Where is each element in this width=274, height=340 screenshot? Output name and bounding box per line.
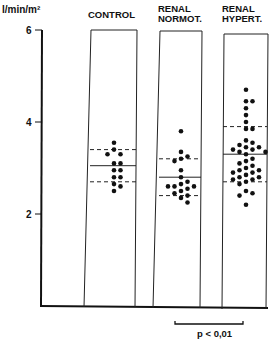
significance-annotation: p < 0,01 (175, 321, 243, 339)
data-point (231, 147, 236, 152)
column-renal-normot: RENALNORMOT. (153, 3, 202, 308)
y-tick-label: 2 (26, 209, 32, 220)
data-point (179, 157, 184, 162)
data-point (244, 113, 249, 118)
data-point (118, 175, 123, 180)
data-point (172, 159, 177, 164)
data-point (237, 193, 242, 198)
data-point (179, 129, 184, 134)
data-point (237, 150, 242, 155)
data-point (244, 152, 249, 157)
data-point (237, 168, 242, 173)
data-point (179, 182, 184, 187)
data-point (112, 189, 117, 194)
data-point (244, 88, 249, 93)
data-point (237, 161, 242, 166)
column-renal-hypert: RENALHYPERT. (222, 3, 268, 309)
data-point (185, 200, 190, 205)
category-label: NORMOT. (158, 13, 202, 24)
data-point (244, 173, 249, 178)
category-label: HYPERT. (222, 13, 262, 24)
data-point (112, 182, 117, 187)
data-point (112, 168, 117, 173)
data-point (244, 138, 249, 143)
data-point (172, 191, 177, 196)
data-point (244, 106, 249, 111)
data-point (192, 184, 197, 189)
data-point (250, 157, 255, 162)
data-point (263, 150, 268, 155)
data-point (231, 170, 236, 175)
data-point (237, 182, 242, 187)
data-point (250, 170, 255, 175)
data-point (179, 150, 184, 155)
data-point (105, 152, 110, 157)
data-point (244, 159, 249, 164)
data-point (118, 168, 123, 173)
data-point (179, 175, 184, 180)
data-point (118, 161, 123, 166)
data-point (257, 168, 262, 173)
data-point (118, 184, 123, 189)
group-columns: CONTROLRENALNORMOT.RENALHYPERT. (84, 3, 268, 309)
data-point (118, 152, 123, 157)
data-point (244, 180, 249, 185)
y-axis: 246 (26, 25, 268, 308)
column-control: CONTROL (84, 9, 137, 307)
category-label: CONTROL (88, 9, 135, 20)
data-point (244, 166, 249, 171)
data-point (231, 177, 236, 182)
chart: l/min/m² 246 CONTROLRENALNORMOT.RENALHYP… (0, 0, 274, 340)
data-point (250, 147, 255, 152)
data-point (257, 145, 262, 150)
data-point (244, 127, 249, 132)
data-point (112, 147, 117, 152)
data-point (112, 175, 117, 180)
data-point (179, 196, 184, 201)
data-point (185, 180, 190, 185)
data-point (172, 184, 177, 189)
y-axis-label: l/min/m² (2, 4, 41, 15)
data-point (250, 99, 255, 104)
y-tick-label: 4 (26, 117, 32, 128)
data-point (244, 189, 249, 194)
data-point (179, 189, 184, 194)
data-point (237, 143, 242, 148)
data-point (112, 140, 117, 145)
data-point (112, 161, 117, 166)
data-point (250, 177, 255, 182)
p-value-label: p < 0,01 (197, 328, 233, 339)
data-point (185, 193, 190, 198)
data-point (185, 186, 190, 191)
data-point (166, 184, 171, 189)
data-point (185, 154, 190, 159)
data-point (250, 127, 255, 132)
data-point (244, 99, 249, 104)
data-point (250, 163, 255, 168)
data-point (237, 175, 242, 180)
data-point (244, 145, 249, 150)
data-point (244, 203, 249, 208)
y-tick-label: 6 (26, 25, 32, 36)
data-point (244, 120, 249, 125)
data-point (250, 191, 255, 196)
data-point (250, 140, 255, 145)
data-point (257, 175, 262, 180)
data-point (179, 168, 184, 173)
